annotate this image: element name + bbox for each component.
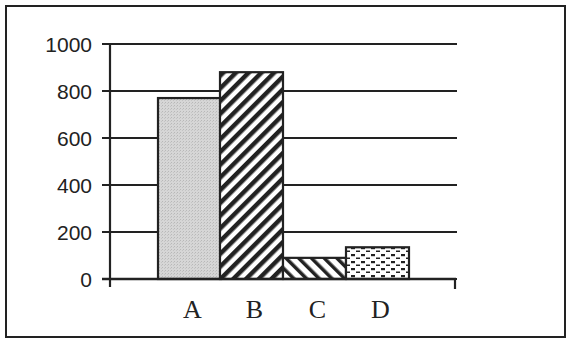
y-tick-label: 200	[57, 221, 92, 244]
y-tick-label: 1000	[45, 33, 92, 56]
bar-c	[283, 258, 346, 279]
bar-a	[158, 98, 221, 279]
bars	[158, 72, 409, 279]
x-tick-label: A	[183, 295, 202, 324]
bar-d	[346, 247, 409, 279]
x-tick-label: C	[309, 295, 326, 324]
bar-chart: 02004006008001000 ABCD	[0, 0, 572, 343]
bar-b	[220, 72, 283, 279]
y-tick-label: 0	[80, 268, 92, 291]
x-axis: ABCD	[102, 279, 456, 324]
y-tick-label: 800	[57, 80, 92, 103]
y-tick-label: 400	[57, 174, 92, 197]
y-tick-label: 600	[57, 127, 92, 150]
y-axis: 02004006008001000	[45, 33, 110, 291]
x-tick-label: D	[371, 295, 390, 324]
x-tick-label: B	[246, 295, 263, 324]
